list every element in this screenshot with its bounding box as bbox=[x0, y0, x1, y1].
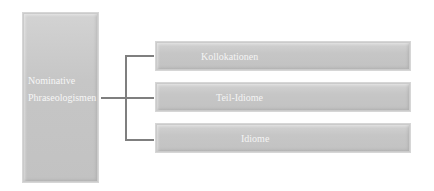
child-node-kollokationen: Kollokationen bbox=[155, 41, 411, 71]
child-node-label: Idiome bbox=[241, 133, 269, 144]
child-node-label: Teil-Idiome bbox=[216, 92, 263, 103]
child-node-label: Kollokationen bbox=[201, 51, 258, 62]
child-node-idiome: Idiome bbox=[155, 123, 411, 153]
connector-branch-2 bbox=[125, 97, 154, 99]
root-node-label-line-1: Nominative bbox=[28, 75, 75, 86]
root-node-nominative-phraseologismen: Nominative Phraseologismen bbox=[22, 12, 99, 183]
connector-branch-1 bbox=[125, 55, 154, 57]
root-node-label-line-2: Phraseologismen bbox=[28, 92, 96, 103]
child-node-teil-idiome: Teil-Idiome bbox=[155, 82, 411, 112]
connector-root-horizontal bbox=[101, 97, 126, 99]
connector-branch-3 bbox=[125, 139, 154, 141]
